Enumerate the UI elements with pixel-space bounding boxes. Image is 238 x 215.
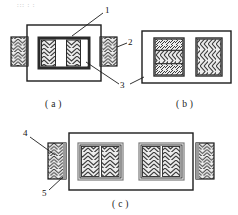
panel-b-block-left-band-bottom [155,64,183,75]
callout-5-label: 5 [42,188,47,198]
figure-background [0,0,238,215]
panel-b-block-left-band-top [155,39,183,50]
technical-figure: ::: : : 1 2 3 [0,0,238,215]
caption-a: ( a ) [45,99,62,110]
panel-a-tab-right [100,37,117,66]
panel-c-group-left [78,143,123,180]
panel-b-block-right [196,38,222,76]
panel-c-tab-left [48,143,66,179]
page-artifact-text: ::: : : [17,2,35,8]
panel-c-group-right-bar-2 [163,147,181,177]
panel-c-group-right-bar-1 [143,147,161,177]
panel-a-core-bar-left [42,40,56,66]
panel-c-group-right [139,143,184,180]
callout-4-label: 4 [23,128,28,138]
panel-a-core-bar-right [67,40,81,66]
panel-a-tab-left [11,37,28,66]
callout-2-label: 2 [128,37,133,47]
panel-b-block-left [154,38,184,76]
panel-b-block-right-hatch [197,39,221,75]
caption-b: ( b ) [176,99,193,110]
caption-c: ( c ) [112,199,129,210]
panel-b-block-left-band-mid [155,51,183,64]
panel-c-group-left-bar-2 [102,147,120,177]
callout-1-label: 1 [105,5,110,15]
panel-a-core-gap [57,40,66,66]
panel-c-group-left-bar-1 [82,147,100,177]
callout-3-label: 3 [120,80,125,90]
panel-c-tab-right [196,143,214,179]
